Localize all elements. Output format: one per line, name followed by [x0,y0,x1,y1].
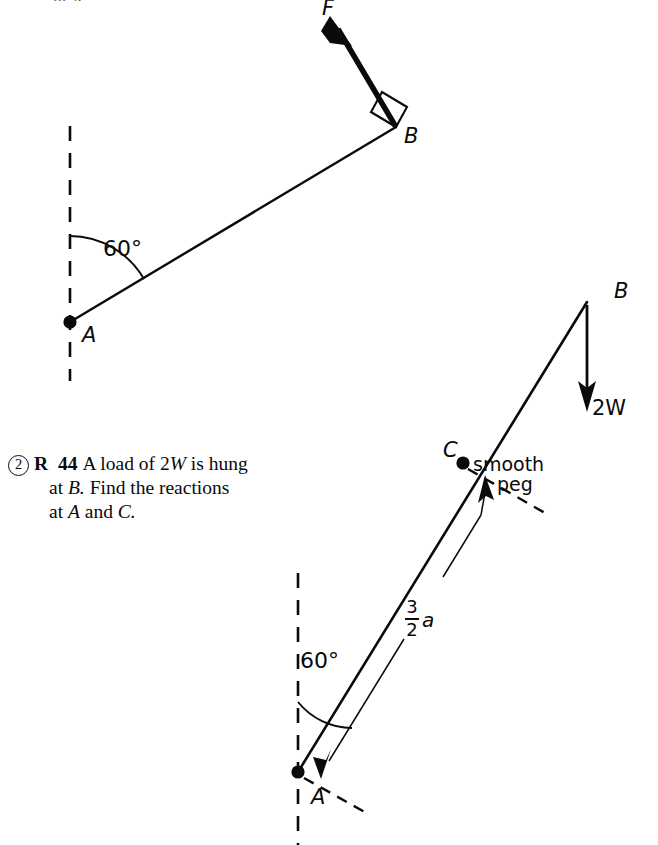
label-point-a-bottom: A [311,787,325,808]
figure-page: at A. [0,0,658,845]
label-load-2w: 2W [592,398,626,419]
fraction-numerator: 3 [405,598,418,617]
force-arrow-head-f [321,16,352,46]
problem-line3-text-cont: and [85,501,113,522]
dimension-arrow-head-upper [478,475,494,503]
problem-line2-variable: B. [68,477,85,498]
problem-text-block: 2R44 A load of 2W is hung at B. Find the… [8,452,308,523]
length-unit-a: a [422,608,434,632]
problem-line2-text: at [49,477,63,498]
fraction-three-halves: 3 2 [405,598,419,639]
problem-line2-text-cont: Find the reactions [90,477,230,498]
pivot-point-a-top [63,315,76,328]
problem-line-3: at A and C. [8,500,308,524]
label-length-three-halves-a: 3 2 a [405,598,434,639]
problem-source-code: R [34,453,48,474]
problem-circled-number: 2 [8,455,29,476]
label-smooth-peg-line2: peg [497,475,533,494]
problem-line3-variable-a: A [68,501,80,522]
rod-ab-bottom [298,302,587,772]
dimension-line-upper-segment [443,515,481,577]
problem-line-1: 2R44 A load of 2W is hung [8,452,308,476]
label-angle-60-top: 60° [103,238,142,260]
problem-line3-text: at [49,501,63,522]
dimension-arrow-head-lower [313,749,331,779]
figure-top-group [63,16,407,381]
label-angle-60-bottom: 60° [300,650,339,672]
dimension-line-lower-segment [329,639,404,761]
diagram-vector-layer [0,0,658,845]
pivot-point-a-bottom [291,765,304,778]
problem-line1-variable: W [170,453,186,474]
peg-point-c [456,456,469,469]
label-force-f: F [322,0,334,19]
angle-arc-60-bottom [298,702,352,728]
fraction-denominator: 2 [405,621,418,640]
problem-line1-text: A load of 2 [82,453,169,474]
label-point-a-top: A [82,325,96,346]
problem-line3-variable-c: C. [118,501,136,522]
problem-line1-text-cont: is hung [191,453,248,474]
problem-number: 44 [58,453,78,474]
label-point-c: C [443,440,458,461]
label-point-b-bottom: B [614,281,628,302]
figure-bottom-group [291,302,596,845]
problem-line-2: at B. Find the reactions [8,476,308,500]
label-point-b-top: B [404,126,418,147]
rod-ab-top [70,127,396,322]
label-smooth-peg-line1: smooth [473,455,544,474]
